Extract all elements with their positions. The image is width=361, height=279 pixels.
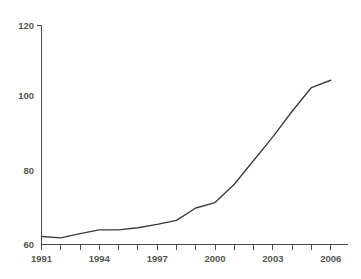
x-tick-label-2000: 2000 [204,253,225,264]
y-tick-label-120: 120 [18,20,34,31]
y-axis-tick-labels: 120 100 80 60 [18,20,34,250]
x-tick-label-1994: 1994 [89,253,111,264]
chart-canvas: 120 100 80 60 [0,0,361,279]
plot-area [42,80,331,238]
x-tick-label-1997: 1997 [147,253,168,264]
x-axis-ticks [42,245,331,250]
x-tick-label-1991: 1991 [31,253,53,264]
y-tick-label-80: 80 [23,165,34,176]
x-tick-label-2003: 2003 [262,253,283,264]
data-series-line [42,80,331,238]
y-tick-label-100: 100 [18,90,34,101]
x-axis: 1991 1994 1997 2000 2003 2006 [31,245,348,265]
x-tick-label-2006: 2006 [320,253,341,264]
x-axis-tick-labels: 1991 1994 1997 2000 2003 2006 [31,253,341,264]
y-tick-label-60: 60 [23,239,34,250]
line-chart: 120 100 80 60 [0,0,361,279]
y-axis: 120 100 80 60 [18,20,41,250]
